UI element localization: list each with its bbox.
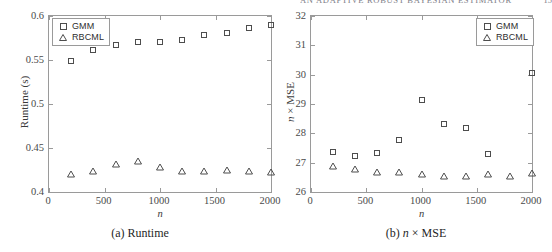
x-tick: [160, 16, 161, 20]
x-tick: [532, 188, 533, 192]
y-tick: [49, 60, 53, 61]
y-tick: [528, 104, 532, 105]
y-tick-label: 31: [268, 39, 306, 50]
y-tick: [49, 16, 53, 17]
caption-b: (b) n × MSE: [280, 226, 552, 241]
y-tick-label: 0.6: [6, 10, 44, 21]
figure-page: 15 AN ADAPTIVE ROBUST BAYESIAN ESTIMATOR…: [0, 0, 552, 252]
y-tick: [267, 148, 271, 149]
y-tick: [311, 16, 315, 17]
x-tick-label: 0: [45, 195, 50, 206]
x-tick-label: 500: [357, 195, 373, 206]
x-tick-label: 1000: [410, 195, 431, 206]
x-tick-label: 0: [307, 195, 312, 206]
data-point-gmm: [419, 97, 425, 103]
data-point-rbcml: [462, 172, 470, 179]
legend-label-rbcml: RBCML: [70, 32, 104, 42]
data-point-rbcml: [329, 162, 337, 169]
data-point-rbcml: [373, 169, 381, 176]
data-point-rbcml: [506, 172, 514, 179]
data-point-rbcml: [223, 167, 231, 174]
y-tick: [311, 45, 315, 46]
x-tick: [366, 16, 367, 20]
y-tick: [311, 133, 315, 134]
x-tick-label: 2000: [521, 195, 542, 206]
x-axis-title-a: n: [48, 208, 272, 219]
data-point-rbcml: [178, 167, 186, 174]
x-tick: [216, 16, 217, 20]
x-tick-label: 2000: [260, 195, 281, 206]
y-tick: [528, 16, 532, 17]
data-point-gmm: [157, 39, 163, 45]
legend-a: GMM RBCML: [52, 18, 110, 46]
y-tick: [49, 104, 53, 105]
legend-b: GMM RBCML: [476, 18, 534, 46]
data-point-rbcml: [200, 167, 208, 174]
data-point-gmm: [246, 25, 252, 31]
data-point-rbcml: [156, 164, 164, 171]
square-marker-icon: [56, 23, 70, 30]
y-tick: [267, 60, 271, 61]
figure-b-n-mse: 050010001500200026272829303132 n × MSE n…: [280, 0, 552, 252]
y-tick-label: 27: [268, 156, 306, 167]
x-tick-label: 1000: [149, 195, 170, 206]
data-point-gmm: [201, 32, 207, 38]
legend-item-rbcml: RBCML: [56, 32, 104, 43]
y-axis-title-b: n × MSE: [284, 57, 296, 147]
legend-label-rbcml: RBCML: [494, 32, 528, 42]
x-tick-label: 1500: [465, 195, 486, 206]
data-point-rbcml: [484, 171, 492, 178]
data-point-gmm: [330, 149, 336, 155]
data-point-gmm: [374, 150, 380, 156]
x-tick: [422, 188, 423, 192]
data-point-gmm: [463, 125, 469, 131]
data-point-gmm: [90, 47, 96, 53]
legend-label-gmm: GMM: [70, 21, 94, 31]
y-tick: [311, 192, 315, 193]
y-tick-label: 32: [268, 10, 306, 21]
data-point-gmm: [68, 58, 74, 64]
data-point-gmm: [135, 39, 141, 45]
x-tick: [216, 188, 217, 192]
data-point-gmm: [113, 42, 119, 48]
data-point-rbcml: [440, 172, 448, 179]
legend-item-rbcml: RBCML: [480, 32, 528, 43]
data-point-rbcml: [351, 166, 359, 173]
data-point-rbcml: [67, 170, 75, 177]
x-tick-label: 500: [96, 195, 112, 206]
y-tick: [528, 192, 532, 193]
y-tick-label: 0.4: [6, 186, 44, 197]
x-tick: [422, 16, 423, 20]
data-point-rbcml: [418, 171, 426, 178]
data-point-rbcml: [528, 169, 536, 176]
y-tick: [49, 148, 53, 149]
x-tick: [477, 188, 478, 192]
data-point-rbcml: [112, 160, 120, 167]
y-tick: [311, 104, 315, 105]
y-tick: [528, 133, 532, 134]
legend-label-gmm: GMM: [494, 21, 518, 31]
x-tick-label: 1500: [204, 195, 225, 206]
y-tick: [528, 75, 532, 76]
legend-item-gmm: GMM: [480, 21, 528, 32]
data-point-rbcml: [267, 168, 275, 175]
x-tick: [366, 188, 367, 192]
data-point-rbcml: [245, 167, 253, 174]
y-tick: [311, 75, 315, 76]
y-tick: [311, 163, 315, 164]
data-point-gmm: [485, 151, 491, 157]
legend-item-gmm: GMM: [56, 21, 104, 32]
y-tick: [49, 192, 53, 193]
square-marker-icon: [480, 23, 494, 30]
figure-a-runtime: 05001000150020000.40.450.50.550.6 Runtim…: [0, 0, 280, 252]
y-tick-label: 26: [268, 186, 306, 197]
x-tick: [105, 188, 106, 192]
data-point-rbcml: [134, 158, 142, 165]
x-tick: [160, 188, 161, 192]
data-point-gmm: [224, 30, 230, 36]
y-axis-title-a: Runtime (s): [18, 57, 30, 147]
x-axis-title-b: n: [310, 208, 533, 219]
data-point-gmm: [396, 137, 402, 143]
data-point-rbcml: [89, 167, 97, 174]
data-point-gmm: [268, 22, 274, 28]
